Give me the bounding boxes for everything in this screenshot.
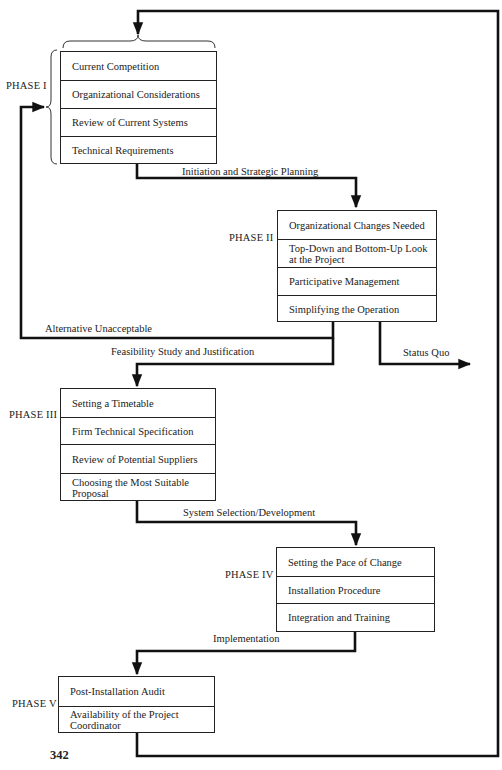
phase5-item: Post-Installation Audit — [59, 677, 214, 706]
phase1-label: PHASE I — [6, 80, 47, 91]
flow-label-feasibility: Feasibility Study and Justification — [111, 346, 254, 357]
phase3-item: Review of Potential Suppliers — [61, 444, 215, 473]
phase4-item: Integration and Training — [277, 603, 434, 631]
phase1-item: Current Competition — [61, 52, 216, 80]
phase3-label: PHASE III — [9, 409, 57, 420]
flow-label-initiation: Initiation and Strategic Planning — [182, 166, 318, 177]
phase5-label: PHASE V — [12, 698, 57, 709]
phase2-label: PHASE II — [229, 232, 273, 243]
flow-label-system-selection: System Selection/Development — [183, 507, 315, 518]
flow-label-status-quo: Status Quo — [403, 347, 449, 358]
phase3-item: Setting a Timetable — [61, 389, 215, 417]
phase1-item: Review of Current Systems — [61, 108, 216, 136]
phase2-box: Organizational Changes Needed Top-Down a… — [277, 210, 437, 322]
phase4-box: Setting the Pace of Change Installation … — [276, 547, 435, 632]
flow-label-alternative-unacceptable: Alternative Unacceptable — [45, 323, 152, 334]
phase3-box: Setting a Timetable Firm Technical Speci… — [60, 388, 216, 501]
phase1-item: Organizational Considerations — [61, 80, 216, 108]
phase2-item: Simplifying the Operation — [278, 295, 436, 322]
phase4-item: Setting the Pace of Change — [277, 548, 434, 576]
phase4-item: Installation Procedure — [277, 576, 434, 603]
phase5-item: Availability of the Project Coordinator — [59, 706, 214, 733]
phase4-label: PHASE IV — [225, 569, 274, 580]
phase3-item: Choosing the Most Suitable Proposal — [61, 473, 215, 501]
flow-label-implementation: Implementation — [213, 633, 279, 644]
page-number: 342 — [50, 748, 69, 763]
phase5-box: Post-Installation Audit Availability of … — [58, 676, 215, 733]
phase2-item: Participative Management — [278, 267, 436, 295]
phase1-box: Current Competition Organizational Consi… — [60, 51, 217, 164]
phase2-item: Top-Down and Bottom-Up Look at the Proje… — [278, 239, 436, 267]
phase1-left-brace — [46, 50, 57, 164]
phase3-item: Firm Technical Specification — [61, 417, 215, 444]
phase2-item: Organizational Changes Needed — [278, 211, 436, 239]
phase1-top-brace — [63, 35, 215, 48]
phase1-item: Technical Requirements — [61, 136, 216, 164]
